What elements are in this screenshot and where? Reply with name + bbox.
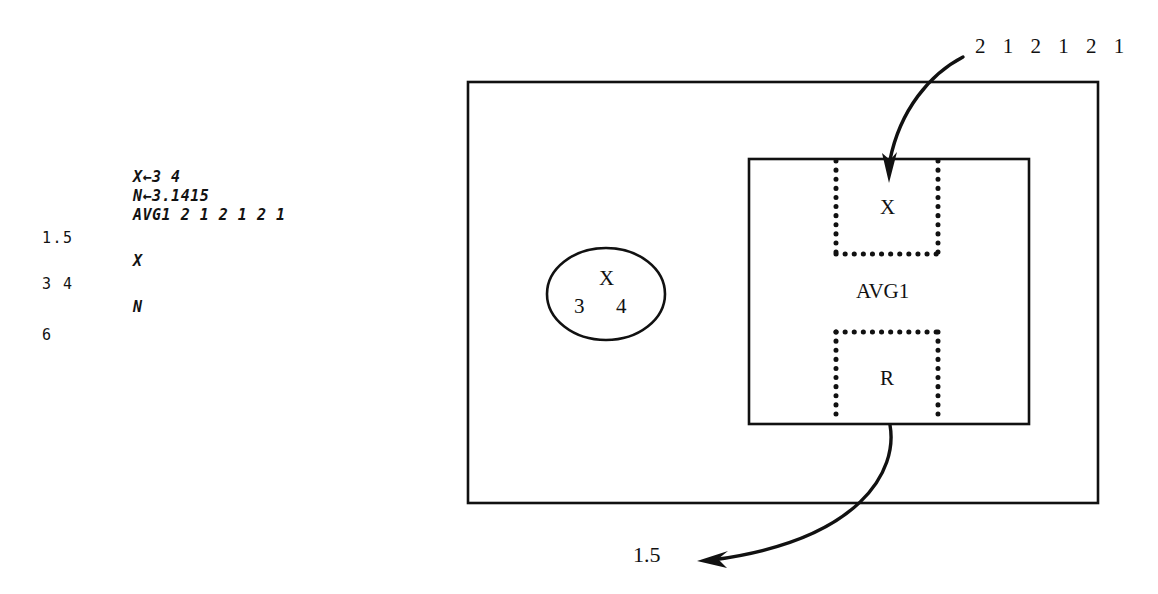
function-frame-label: AVG1	[856, 281, 909, 302]
input-argument-arrow	[882, 57, 963, 183]
output-result-arrow	[697, 425, 891, 568]
local-binding-x-label: X	[880, 197, 895, 218]
input-argument-label: 2 1 2 1 2 1	[975, 36, 1130, 57]
variable-bubble-value: 3 4	[574, 296, 627, 317]
output-result-label: 1.5	[633, 544, 661, 566]
figure-canvas: X←3 4 N←3.1415 AVG1 2 1 2 1 2 1 1.5 X 3 …	[0, 0, 1158, 594]
global-environment-box	[468, 82, 1098, 503]
local-binding-r-label: R	[880, 368, 894, 389]
variable-bubble-name: X	[599, 268, 614, 289]
